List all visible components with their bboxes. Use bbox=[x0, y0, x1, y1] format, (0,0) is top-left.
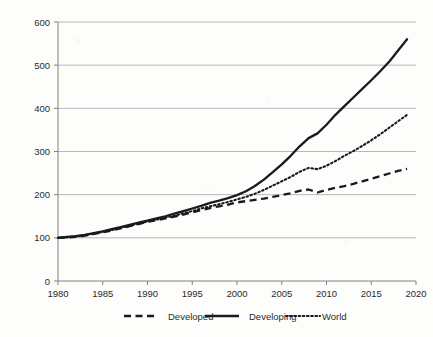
y-tick-label: 0 bbox=[45, 276, 50, 287]
y-tick-label: 600 bbox=[34, 17, 50, 28]
x-tick-label: 1980 bbox=[47, 288, 68, 299]
x-tick-label: 1995 bbox=[182, 288, 203, 299]
chart-canvas: 0100200300400500600 19801985199019952000… bbox=[0, 0, 433, 337]
x-tick-label: 2020 bbox=[405, 288, 426, 299]
x-tick-label: 2000 bbox=[226, 288, 247, 299]
y-tick-label: 500 bbox=[34, 60, 50, 71]
x-tick-label: 2010 bbox=[316, 288, 337, 299]
chart-background bbox=[0, 0, 433, 337]
y-tick-label: 400 bbox=[34, 103, 50, 114]
legend-label-world: World bbox=[322, 311, 347, 322]
x-tick-label: 2005 bbox=[271, 288, 292, 299]
y-tick-label: 100 bbox=[34, 232, 50, 243]
line-chart: 0100200300400500600 19801985199019952000… bbox=[0, 0, 433, 337]
y-tick-label: 300 bbox=[34, 146, 50, 157]
x-tick-labels: 198019851990199520002005201020152020 bbox=[47, 288, 426, 299]
x-tick-label: 1985 bbox=[92, 288, 113, 299]
x-tick-label: 1990 bbox=[137, 288, 158, 299]
x-tick-label: 2015 bbox=[361, 288, 382, 299]
y-tick-label: 200 bbox=[34, 189, 50, 200]
